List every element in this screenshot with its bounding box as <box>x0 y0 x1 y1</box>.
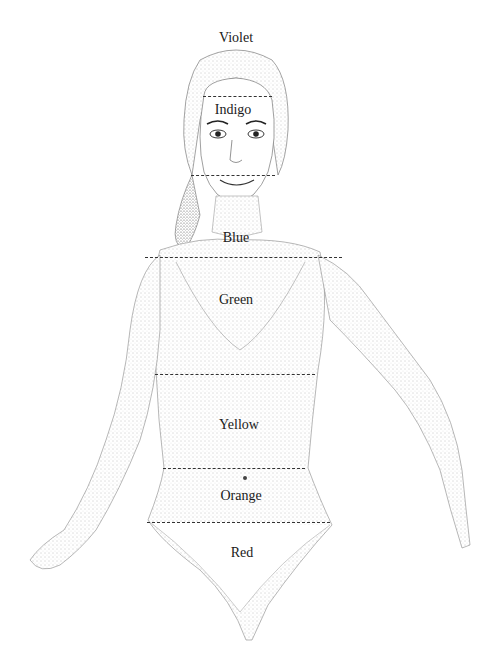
divider-green-yellow <box>155 374 315 375</box>
zone-label-green: Green <box>219 292 253 308</box>
divider-blue-green <box>145 257 342 258</box>
zone-label-blue: Blue <box>223 230 249 246</box>
body-illustration <box>0 0 500 663</box>
divider-yellow-orange <box>163 468 305 469</box>
left-arm <box>30 255 160 569</box>
zone-label-orange: Orange <box>220 488 261 504</box>
divider-violet-indigo <box>203 96 272 97</box>
right-arm <box>318 255 470 548</box>
divider-orange-red <box>147 522 330 523</box>
zone-label-red: Red <box>231 545 254 561</box>
zone-label-yellow: Yellow <box>219 417 259 433</box>
zone-label-indigo: Indigo <box>215 102 252 118</box>
zone-label-violet: Violet <box>219 30 253 46</box>
divider-indigo-blue <box>191 175 275 176</box>
